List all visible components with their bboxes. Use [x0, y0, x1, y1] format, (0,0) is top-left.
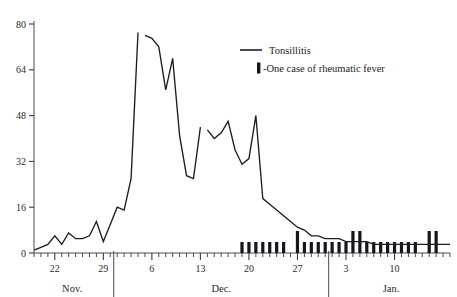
case-bar: [337, 242, 340, 253]
case-bar: [282, 242, 285, 253]
case-bar: [317, 242, 320, 253]
month-label: Nov.: [62, 283, 82, 294]
x-axis: 22296132027310: [34, 253, 450, 274]
tonsillitis-line: [34, 33, 450, 251]
x-tick-label: 27: [292, 263, 302, 274]
y-tick-label: 0: [21, 248, 26, 259]
case-bar: [365, 242, 368, 253]
month-axis-labels: Nov.Dec.Jan.: [62, 251, 399, 297]
legend-label-tonsillitis: Tonsillitis: [269, 45, 311, 56]
y-tick-label: 16: [16, 202, 26, 213]
x-tick-label: 29: [98, 263, 108, 274]
case-bar: [428, 231, 431, 253]
x-tick-label: 22: [50, 263, 60, 274]
x-tick-label: 20: [244, 263, 254, 274]
case-bar: [296, 231, 299, 253]
month-label: Dec.: [211, 283, 231, 294]
month-label: Jan.: [383, 283, 400, 294]
tonsillitis-line-segment: [145, 35, 200, 178]
tonsillitis-line-segment: [207, 116, 450, 245]
chart-legend: Tonsillitis-One case of rheumatic fever: [240, 45, 385, 74]
rheumatic-fever-bars: [240, 231, 437, 253]
case-bar: [310, 242, 313, 253]
case-bar: [261, 242, 264, 253]
x-tick-label: 10: [390, 263, 400, 274]
tonsillitis-line-segment: [34, 33, 138, 251]
case-bar: [331, 242, 334, 253]
case-bar: [400, 242, 403, 253]
case-bar: [414, 242, 417, 253]
y-axis: 01632486480: [16, 19, 34, 259]
case-bar: [407, 242, 410, 253]
case-bar: [254, 242, 257, 253]
case-bar: [386, 242, 389, 253]
y-tick-label: 80: [16, 19, 26, 30]
y-tick-label: 64: [16, 64, 26, 75]
case-bar: [379, 242, 382, 253]
chart-container: 01632486480 22296132027310 Nov.Dec.Jan. …: [0, 0, 457, 297]
legend-label-rheumatic-fever: -One case of rheumatic fever: [263, 63, 385, 74]
case-bar: [247, 242, 250, 253]
case-bar: [344, 242, 347, 253]
legend-bar-marker: [257, 63, 260, 74]
case-bar: [240, 242, 243, 253]
x-tick-label: 6: [149, 263, 154, 274]
case-bar: [393, 242, 396, 253]
case-bar: [268, 242, 271, 253]
chart-plot-area: 01632486480 22296132027310 Nov.Dec.Jan. …: [0, 0, 457, 297]
y-tick-label: 32: [16, 156, 26, 167]
y-tick-label: 48: [16, 110, 26, 121]
case-bar: [435, 231, 438, 253]
x-tick-label: 3: [344, 263, 349, 274]
x-tick-label: 13: [195, 263, 205, 274]
case-bar: [275, 242, 278, 253]
case-bar: [324, 242, 327, 253]
case-bar: [303, 242, 306, 253]
